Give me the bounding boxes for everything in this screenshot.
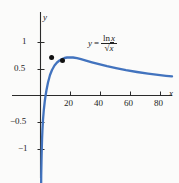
x-axis-label: x bbox=[169, 89, 173, 98]
plot-canvas bbox=[0, 0, 179, 183]
y-axis-label: y bbox=[43, 13, 47, 22]
equation-equals-sign: = bbox=[94, 39, 99, 48]
denominator-variable: x bbox=[110, 42, 114, 53]
annotated-point-inflection bbox=[60, 58, 65, 63]
figure-plot-ln-x-over-sqrt-x: 1 0.5 −0.5 −1 20 40 60 80 y x y = lnx √x bbox=[0, 0, 179, 183]
x-tick-label-80: 80 bbox=[154, 99, 163, 108]
y-tick-label-neg-1: −1 bbox=[18, 144, 28, 153]
y-tick-label-1: 1 bbox=[22, 37, 27, 46]
radical-sign: √ bbox=[105, 43, 110, 53]
equation-label: y = lnx √x bbox=[88, 34, 117, 53]
x-tick-label-60: 60 bbox=[124, 99, 133, 108]
x-tick-label-40: 40 bbox=[94, 99, 103, 108]
annotated-point-maximum bbox=[49, 55, 54, 60]
equation-lhs: y bbox=[88, 39, 92, 48]
curve-ln-x-over-sqrt-x bbox=[41, 57, 172, 183]
x-axis-ticks bbox=[71, 92, 161, 96]
equation-denominator: √x bbox=[103, 44, 116, 53]
y-tick-label-neg-0.5: −0.5 bbox=[10, 117, 26, 126]
x-tick-label-20: 20 bbox=[64, 99, 73, 108]
y-tick-label-0.5: 0.5 bbox=[14, 64, 25, 73]
equation-fraction: lnx √x bbox=[101, 34, 117, 53]
